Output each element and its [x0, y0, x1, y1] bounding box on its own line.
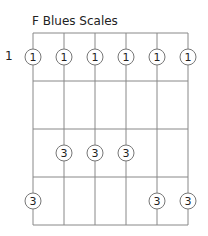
svg-text:3: 3: [30, 195, 37, 208]
finger-dot: 1: [118, 49, 134, 65]
svg-text:1: 1: [185, 51, 192, 64]
svg-text:3: 3: [92, 147, 99, 160]
svg-text:3: 3: [61, 147, 68, 160]
finger-dot: 3: [149, 193, 165, 209]
finger-dot: 3: [25, 193, 41, 209]
finger-dot: 3: [118, 145, 134, 161]
svg-text:3: 3: [154, 195, 161, 208]
svg-text:1: 1: [154, 51, 161, 64]
finger-dot: 1: [87, 49, 103, 65]
finger-dot: 3: [180, 193, 196, 209]
svg-text:1: 1: [61, 51, 68, 64]
finger-dot: 1: [149, 49, 165, 65]
fretboard-grid: 111111333333: [0, 0, 208, 236]
finger-dot: 3: [87, 145, 103, 161]
svg-text:3: 3: [123, 147, 130, 160]
finger-dot: 3: [56, 145, 72, 161]
svg-text:1: 1: [123, 51, 130, 64]
svg-text:1: 1: [92, 51, 99, 64]
finger-dot: 1: [25, 49, 41, 65]
svg-text:1: 1: [30, 51, 37, 64]
finger-dot: 1: [180, 49, 196, 65]
finger-dot: 1: [56, 49, 72, 65]
svg-text:3: 3: [185, 195, 192, 208]
